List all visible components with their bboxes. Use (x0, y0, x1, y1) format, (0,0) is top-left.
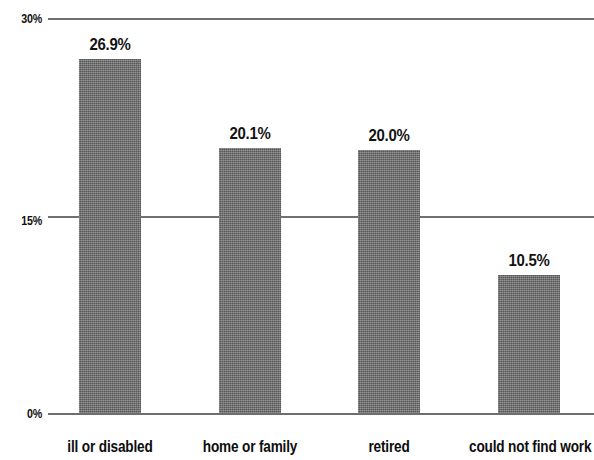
bar-home-or-family (219, 148, 281, 413)
bar-value-label-retired: 20.0% (345, 126, 433, 146)
bar-value-label-home-or-family: 20.1% (206, 124, 294, 144)
x-axis-label-home-or-family: home or family (190, 437, 310, 457)
bar-value-label-could-not-find-work: 10.5% (485, 251, 573, 271)
bar-chart: 30% 15% 0% 26.9% 20.1% 20.0% 10.5% ill o… (0, 0, 594, 460)
bar-could-not-find-work (498, 275, 560, 413)
y-axis-tick-label-30: 30% (8, 11, 42, 26)
bar-ill-or-disabled (79, 59, 141, 413)
plot-area: 30% 15% 0% 26.9% 20.1% 20.0% 10.5% ill o… (0, 0, 594, 460)
axis-baseline-0-percent (48, 413, 594, 415)
bar-value-label-ill-or-disabled: 26.9% (66, 35, 154, 55)
x-axis-label-retired: retired (329, 437, 449, 457)
bar-retired (358, 150, 420, 413)
x-axis-label-ill-or-disabled: ill or disabled (50, 437, 170, 457)
y-axis-tick-label-15: 15% (8, 213, 42, 228)
gridline-30-percent (48, 18, 594, 20)
y-axis-tick-label-0: 0% (8, 406, 42, 421)
x-axis-label-could-not-find-work: could not find work (469, 437, 589, 457)
